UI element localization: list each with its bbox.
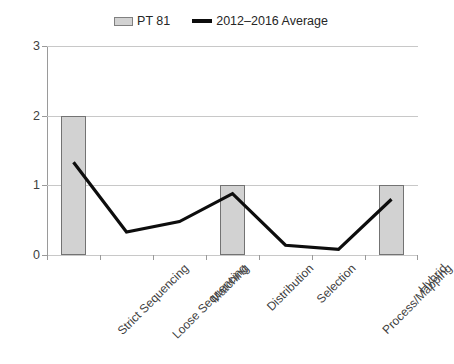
plot-area: 0123	[47, 46, 418, 255]
y-tick-label-1: 1	[33, 179, 40, 192]
x-tick-mark-0	[47, 255, 48, 260]
x-tick-mark-7	[417, 255, 418, 260]
x-tick-mark-1	[100, 255, 101, 260]
y-tick-label-2: 2	[33, 109, 40, 122]
x-label-matching: Matching	[208, 262, 251, 305]
legend-entry-average: 2012–2016 Average	[192, 15, 328, 28]
y-tick-label-0: 0	[33, 249, 40, 262]
legend-label-average: 2012–2016 Average	[216, 15, 328, 28]
chart-legend: PT 81 2012–2016 Average	[0, 10, 442, 32]
legend-label-pt81: PT 81	[137, 15, 170, 28]
x-label-selection: Selection	[314, 262, 357, 305]
bar-swatch-icon	[114, 17, 133, 26]
x-label-distribution: Distribution	[264, 262, 315, 313]
x-tick-mark-2	[153, 255, 154, 260]
legend-entry-pt81: PT 81	[114, 15, 170, 28]
y-tick-label-3: 3	[33, 40, 40, 53]
line-swatch-icon	[192, 19, 212, 23]
average-line-path	[74, 162, 392, 249]
line-series-average	[47, 46, 418, 255]
x-tick-mark-6	[365, 255, 366, 260]
x-tick-mark-4	[259, 255, 260, 260]
x-tick-mark-5	[312, 255, 313, 260]
gridline-0	[47, 255, 418, 256]
x-tick-mark-3	[206, 255, 207, 260]
x-axis-labels: Strict SequencingLoose SequencingMatchin…	[47, 262, 418, 362]
